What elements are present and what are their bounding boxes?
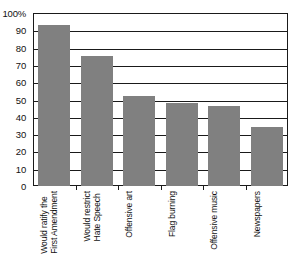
x-axis-label: Offensive music [210,191,220,250]
x-tick [203,186,204,190]
bars-layer [33,13,288,186]
x-tick [76,186,77,190]
y-tick-label: 80 [16,42,26,53]
x-tick [161,186,162,190]
x-axis-label: Would ratify theFirst Amendment [40,191,59,254]
x-axis-label: Newspapers [253,191,263,237]
y-tick-label: 30 [16,129,26,140]
x-label-line: Would ratify the [39,196,49,253]
x-axis-label: Would restrictHate Speech [83,191,102,241]
x-label-line: First Amendment [50,191,60,254]
x-tick [118,186,119,190]
y-tick-label: 70 [16,59,26,70]
y-tick-label: 20 [16,146,26,157]
x-label-line: Offensive art [124,191,134,238]
y-tick-label: 100% [3,8,27,19]
bar-chart: 0102030405060708090100% Would ratify the… [0,0,306,262]
y-tick-label: 40 [16,111,26,122]
bar [38,25,70,186]
y-axis: 0102030405060708090100% [0,13,30,186]
x-tick [246,186,247,190]
x-label-line: Hate Speech [92,191,102,241]
x-axis-label: Flag burning [168,191,178,237]
bar [81,56,113,186]
x-axis-label: Offensive art [125,191,135,238]
y-tick-label: 90 [16,25,26,36]
x-label-line: Flag burning [167,191,177,237]
bar [208,106,240,186]
y-tick-label: 60 [16,77,26,88]
x-label-line: Would restrict [82,191,92,241]
bar [123,96,155,186]
x-axis: Would ratify theFirst AmendmentWould res… [33,191,288,262]
y-tick-label: 50 [16,94,26,105]
bar [166,103,198,186]
x-label-line: Offensive music [209,191,219,250]
x-label-line: Newspapers [252,191,262,237]
y-tick-label: 0 [21,181,26,192]
y-tick-label: 10 [16,163,26,174]
bar [251,127,283,186]
